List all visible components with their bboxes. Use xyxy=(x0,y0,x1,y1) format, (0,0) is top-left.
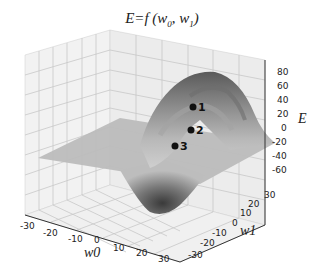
svg-text:-60: -60 xyxy=(272,165,287,175)
svg-text:-20: -20 xyxy=(43,228,58,238)
svg-text:30: 30 xyxy=(158,254,170,264)
svg-text:10: 10 xyxy=(240,208,252,218)
svg-text:-10: -10 xyxy=(68,234,83,244)
z-axis-ticks: 80 60 40 20 0 -20 -40 -60 E xyxy=(272,67,307,175)
svg-text:-20: -20 xyxy=(272,137,287,147)
svg-text:1: 1 xyxy=(198,101,206,114)
surface-plot: 1 2 3 80 60 40 20 0 -20 -40 -60 E -30 -2… xyxy=(0,0,324,276)
point-2 xyxy=(188,127,195,134)
svg-text:-10: -10 xyxy=(212,228,227,238)
svg-text:20: 20 xyxy=(277,109,289,119)
svg-text:80: 80 xyxy=(277,67,289,77)
svg-text:w0: w0 xyxy=(84,245,100,260)
svg-text:3: 3 xyxy=(180,140,188,153)
svg-text:20: 20 xyxy=(248,199,260,209)
svg-text:60: 60 xyxy=(277,81,289,91)
svg-text:30: 30 xyxy=(264,190,276,200)
svg-text:0: 0 xyxy=(232,218,238,228)
svg-text:w1: w1 xyxy=(240,223,256,238)
svg-text:10: 10 xyxy=(113,243,125,253)
point-3 xyxy=(172,143,179,150)
svg-text:-40: -40 xyxy=(272,151,287,161)
svg-text:E: E xyxy=(297,111,307,126)
svg-text:2: 2 xyxy=(196,124,204,137)
svg-text:0: 0 xyxy=(94,235,100,245)
point-1 xyxy=(190,104,197,111)
svg-text:-30: -30 xyxy=(20,221,35,231)
svg-text:20: 20 xyxy=(136,248,148,258)
svg-text:0: 0 xyxy=(281,123,287,133)
svg-text:40: 40 xyxy=(277,95,289,105)
svg-text:-30: -30 xyxy=(188,250,203,260)
svg-text:-20: -20 xyxy=(200,238,215,248)
